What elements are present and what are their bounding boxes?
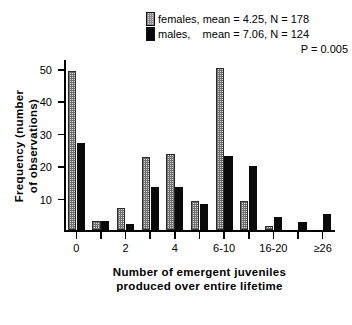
x-axis-title-line1: Number of emergent juveniles — [64, 265, 335, 279]
legend-p-value: P = 0.005 — [146, 43, 350, 55]
bar-males-11-15 — [249, 166, 257, 231]
x-tick-label: 6-10 — [213, 242, 235, 254]
bar-females-4 — [166, 154, 174, 230]
bar-females-1 — [92, 221, 100, 231]
bar-males-16-20 — [274, 217, 282, 230]
chart-figure: females, mean = 4.25, N = 178 males, mea… — [0, 0, 352, 325]
bar-males-0 — [77, 143, 85, 231]
bar-females-2 — [117, 208, 125, 231]
y-axis-title: Frequency (number of observations) — [12, 56, 42, 236]
x-tick-label: 16-20 — [259, 242, 287, 254]
x-tick — [322, 232, 324, 239]
y-tick — [58, 101, 64, 103]
y-tick — [58, 69, 64, 71]
y-axis-line — [64, 60, 66, 232]
y-axis-title-line2: of observations) — [26, 56, 40, 236]
bar-males-2 — [126, 224, 134, 230]
x-tick — [174, 232, 176, 239]
bar-males-5 — [200, 204, 208, 230]
x-tick — [273, 232, 275, 239]
x-tick-label: ≥26 — [314, 242, 332, 254]
bar-females-5 — [191, 201, 199, 230]
bar-males-4 — [175, 187, 183, 231]
legend-item-females: females, mean = 4.25, N = 178 — [146, 12, 350, 27]
x-tick — [125, 232, 127, 239]
x-tick — [149, 232, 151, 239]
bar-females-3 — [142, 157, 150, 230]
x-tick — [100, 232, 102, 239]
x-tick-label: 4 — [172, 242, 178, 254]
x-tick — [248, 232, 250, 239]
legend: females, mean = 4.25, N = 178 males, mea… — [146, 12, 350, 55]
x-axis-title: Number of emergent juveniles produced ov… — [64, 265, 335, 293]
x-axis-title-line2: produced over entire lifetime — [64, 279, 335, 293]
y-tick — [58, 166, 64, 168]
y-tick — [58, 134, 64, 136]
y-axis-title-line1: Frequency (number — [12, 56, 26, 236]
bar-females-6-10 — [216, 68, 224, 230]
bar-males-21-25 — [298, 222, 306, 230]
bar-males-1 — [101, 221, 109, 231]
x-tick — [297, 232, 299, 239]
bar-males-3 — [151, 187, 159, 231]
x-tick — [199, 232, 201, 239]
bar-females-16-20 — [265, 226, 273, 231]
x-tick — [223, 232, 225, 239]
legend-label-females: females, mean = 4.25, N = 178 — [158, 12, 309, 27]
x-tick-label: 0 — [73, 242, 79, 254]
legend-item-males: males, mean = 7.06, N = 124 — [146, 27, 350, 42]
plot-area: 1020304050 0246-1016-20≥26 Frequency (nu… — [64, 60, 335, 232]
legend-label-males: males, mean = 7.06, N = 124 — [158, 27, 309, 42]
bar-males-≥26 — [323, 214, 331, 230]
legend-swatch-females-icon — [146, 12, 155, 26]
y-tick — [58, 199, 64, 201]
x-tick-label: 2 — [123, 242, 129, 254]
bar-males-6-10 — [224, 156, 232, 231]
bar-females-0 — [68, 71, 76, 230]
legend-swatch-males-icon — [146, 27, 155, 41]
x-tick — [76, 232, 78, 239]
bar-females-11-15 — [240, 201, 248, 230]
